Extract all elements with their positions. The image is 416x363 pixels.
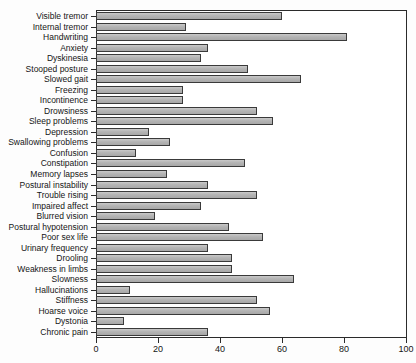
category-label: Postural hypotension	[0, 221, 88, 232]
bar-row	[96, 74, 406, 85]
value-tick	[96, 338, 97, 343]
category-label: Sleep problems	[0, 116, 88, 127]
bar	[96, 286, 130, 294]
category-label-text: Internal tremor	[33, 23, 88, 32]
category-label-text: Visible tremor	[36, 12, 88, 21]
bar-row	[96, 137, 406, 148]
category-label-text: Hallucinations	[35, 285, 88, 294]
bar	[96, 12, 282, 20]
bar-row	[96, 305, 406, 316]
category-label: Handwriting	[0, 32, 88, 43]
bar	[96, 181, 208, 189]
category-label: Impaired affect	[0, 200, 88, 211]
bar-row	[96, 242, 406, 253]
category-label: Poor sex life	[0, 232, 88, 243]
bar	[96, 86, 183, 94]
category-label-text: Drooling	[56, 254, 88, 263]
category-label-text: Chronic pain	[40, 327, 88, 336]
category-label-text: Incontinence	[40, 96, 88, 105]
value-tick	[344, 338, 345, 343]
category-label: Hoarse voice	[0, 305, 88, 316]
category-label: Anxiety	[0, 43, 88, 54]
bar-row	[96, 326, 406, 337]
bar-series	[96, 11, 406, 337]
value-axis-ticks	[96, 338, 407, 344]
bar-row	[96, 106, 406, 117]
bar-row	[96, 148, 406, 159]
category-label: Memory lapses	[0, 169, 88, 180]
bar	[96, 33, 347, 41]
category-label: Hallucinations	[0, 284, 88, 295]
bar-row	[96, 22, 406, 33]
bar	[96, 149, 136, 157]
bar	[96, 54, 201, 62]
bar	[96, 170, 167, 178]
category-label: Trouble rising	[0, 190, 88, 201]
bar-row	[96, 221, 406, 232]
category-label: Depression	[0, 127, 88, 138]
category-label-text: Blurred vision	[37, 212, 89, 221]
category-label-text: Depression	[45, 128, 88, 137]
category-label-text: Postural hypotension	[9, 222, 88, 231]
category-label: Freezing	[0, 85, 88, 96]
bar-row	[96, 169, 406, 180]
category-label: Constipation	[0, 158, 88, 169]
value-tick-label: 100	[398, 345, 413, 354]
bar	[96, 23, 186, 31]
bar-row	[96, 64, 406, 75]
category-label: Stiffness	[0, 295, 88, 306]
category-axis-labels: Visible tremorInternal tremorHandwriting…	[0, 11, 88, 337]
bar	[96, 138, 170, 146]
category-label: Weakness in limbs	[0, 263, 88, 274]
category-label-text: Confusion	[50, 149, 88, 158]
category-label: Swallowing problems	[0, 137, 88, 148]
bar-row	[96, 85, 406, 96]
category-label-text: Drowsiness	[44, 107, 88, 116]
bar-row	[96, 274, 406, 285]
category-label-text: Sleep problems	[29, 117, 88, 126]
category-label: Dystonia	[0, 316, 88, 327]
bar-row	[96, 116, 406, 127]
bar-row	[96, 284, 406, 295]
category-label-text: Anxiety	[60, 44, 88, 53]
value-tick	[158, 338, 159, 343]
bar	[96, 275, 294, 283]
category-label: Dyskinesia	[0, 53, 88, 64]
bar	[96, 296, 257, 304]
category-label-text: Dystonia	[55, 317, 88, 326]
bar-row	[96, 200, 406, 211]
value-tick	[282, 338, 283, 343]
value-tick-label: 20	[153, 345, 163, 354]
bar	[96, 107, 257, 115]
category-label: Blurred vision	[0, 211, 88, 222]
bar	[96, 117, 273, 125]
bar-row	[96, 253, 406, 264]
category-label: Incontinence	[0, 95, 88, 106]
category-label: Drooling	[0, 253, 88, 264]
bar-row	[96, 316, 406, 327]
value-axis-labels: 020406080100	[96, 345, 407, 359]
bar	[96, 265, 232, 273]
bar	[96, 191, 257, 199]
category-label-text: Dyskinesia	[47, 54, 88, 63]
category-label: Urinary frequency	[0, 242, 88, 253]
bar-row	[96, 95, 406, 106]
category-label: Chronic pain	[0, 326, 88, 337]
category-label: Stooped posture	[0, 64, 88, 75]
bar-row	[96, 43, 406, 54]
category-label-text: Handwriting	[43, 33, 88, 42]
bar	[96, 44, 208, 52]
value-tick	[406, 338, 407, 343]
bar-row	[96, 11, 406, 22]
bar	[96, 223, 229, 231]
bar	[96, 96, 183, 104]
category-label-text: Stiffness	[56, 296, 88, 305]
category-label-text: Constipation	[41, 159, 88, 168]
category-label-text: Hoarse voice	[38, 306, 88, 315]
category-label: Postural instability	[0, 179, 88, 190]
bar-row	[96, 232, 406, 243]
bar	[96, 317, 124, 325]
category-label: Slowed gait	[0, 74, 88, 85]
category-label-text: Urinary frequency	[21, 243, 88, 252]
bar-row	[96, 32, 406, 43]
